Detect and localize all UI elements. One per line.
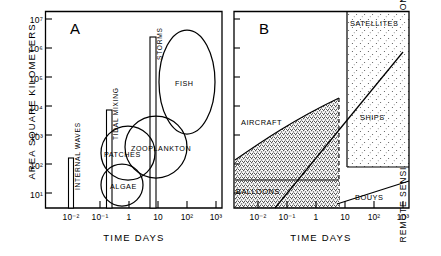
y-tick-label-3: 10³ bbox=[16, 132, 43, 142]
region-satellites bbox=[347, 12, 409, 167]
x-tick-label-a-6: 10³ bbox=[198, 212, 234, 222]
panel-a-plot bbox=[44, 10, 224, 210]
panel-a-letter: A bbox=[70, 20, 81, 37]
bar-label-internal-waves: INTERNAL WAVES bbox=[74, 122, 81, 190]
y-tick-label-4: 10⁴ bbox=[16, 103, 43, 113]
figure-root: AREA SQUARE KILOMETERS REMOTE SENSING OF… bbox=[0, 0, 441, 256]
y-tick-label-7: 10⁷ bbox=[16, 15, 43, 25]
y-tick-label-2: 10² bbox=[16, 161, 43, 171]
region-label-aircraft: AIRCRAFT bbox=[241, 118, 282, 127]
ellipse-label-fish: FISH bbox=[175, 79, 194, 88]
y-tick-label-5: 10⁵ bbox=[16, 74, 43, 84]
y-tick-label-6: 10⁶ bbox=[16, 44, 43, 54]
bar-storms bbox=[150, 37, 156, 208]
ellipse-label-algae: ALGAE bbox=[110, 182, 137, 191]
ellipse-label-patches: PATCHES bbox=[104, 150, 141, 159]
x-axis-title-b: TIME DAYS bbox=[231, 232, 411, 243]
x-tick-label-b-6: 10³ bbox=[385, 212, 421, 222]
bar-internal-waves bbox=[69, 158, 74, 208]
bar-label-storms: STORMS bbox=[156, 27, 163, 60]
bar-label-tidal-mixing: TIDAL MIXING bbox=[112, 87, 119, 140]
y-tick-label-1: 10¹ bbox=[16, 190, 43, 200]
panel-b-letter: B bbox=[259, 20, 270, 37]
region-label-balloons: BALLOONS bbox=[236, 187, 280, 196]
region-label-ships: SHIPS bbox=[360, 113, 385, 122]
region-label-bouys: BOUYS bbox=[355, 193, 383, 202]
panel-b-plot bbox=[231, 10, 411, 210]
region-label-satellites: SATELLITES bbox=[350, 19, 398, 28]
x-axis-title-a: TIME DAYS bbox=[44, 232, 224, 243]
